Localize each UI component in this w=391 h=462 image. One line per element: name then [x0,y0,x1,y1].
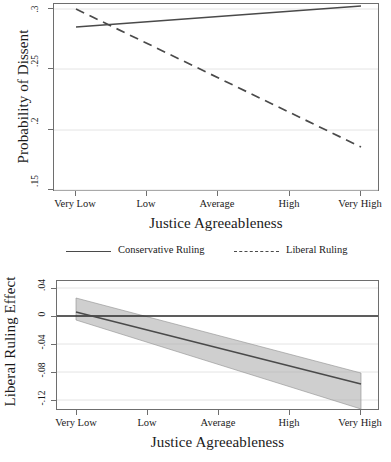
bottom-chart-x-tick-mark [289,410,290,415]
bottom-chart-x-tick-label: High [254,417,324,428]
bottom-chart-y-tick-label: -.08 [37,356,47,384]
bottom-chart-y-axis-title: Liberal Ruling Effect [2,267,19,417]
bottom-chart-series-liberal-ruling-effect [76,312,361,384]
top-chart-y-tick-label: .25 [30,49,40,73]
bottom-chart-x-tick-label: Average [183,417,253,428]
bottom-chart-y-tick-label: 0 [37,302,47,326]
top-chart-x-tick-label: Very High [325,198,391,209]
top-chart-gridlines [54,9,378,190]
bottom-chart-x-tick-label: Very Low [41,417,111,428]
bottom-chart-plot-area [56,280,379,410]
bottom-chart-x-axis-title: Justice Agreeableness [56,434,379,451]
bottom-chart-x-tick-label: Very High [325,417,391,428]
top-chart-x-tick-mark [75,191,76,196]
top-chart-x-tick-label: High [254,198,324,209]
legend-line-liberal-ruling [234,251,279,252]
legend-label-conservative-ruling: Conservative Ruling [118,244,205,255]
top-chart-x-tick-label: Very Low [40,198,110,209]
top-chart-x-tick-label: Low [111,198,181,209]
top-chart-x-tick-label: Average [182,198,252,209]
top-chart-panel: Probability of Dissent .3 .25 .2 .15 Ver… [0,0,391,238]
bottom-chart-x-tick-mark [76,410,77,415]
top-chart-x-tick-mark [289,191,290,196]
top-chart-svg [54,4,378,190]
top-chart-series-liberal-ruling [76,9,361,147]
bottom-chart-x-tick-mark [147,410,148,415]
top-chart-x-axis-title: Justice Agreeableness [53,215,379,232]
bottom-chart-confidence-band [76,298,361,409]
top-chart-x-tick-mark [217,191,218,196]
top-chart-x-tick-mark [360,191,361,196]
top-chart-x-tick-mark [146,191,147,196]
top-chart-y-tick-label: .15 [30,169,40,193]
legend-label-liberal-ruling: Liberal Ruling [286,244,348,255]
bottom-chart-y-tick-label: -.12 [37,384,47,412]
top-chart-y-axis-title: Probability of Dissent [15,17,32,177]
chart-legend: Conservative Ruling Liberal Ruling [0,238,391,266]
bottom-chart-svg [57,281,378,409]
bottom-chart-panel: Liberal Ruling Effect .04 0 -.04 -.08 -.… [0,266,391,462]
bottom-chart-x-tick-mark [360,410,361,415]
legend-line-conservative-ruling [66,251,111,252]
top-chart-y-tick-label: .3 [30,0,40,21]
bottom-chart-x-tick-mark [218,410,219,415]
top-chart-y-tick-label: .2 [30,109,40,133]
bottom-chart-y-tick-label: .04 [37,273,47,297]
bottom-chart-y-tick-label: -.04 [37,328,47,356]
bottom-chart-x-tick-label: Low [112,417,182,428]
top-chart-plot-area [53,3,379,191]
